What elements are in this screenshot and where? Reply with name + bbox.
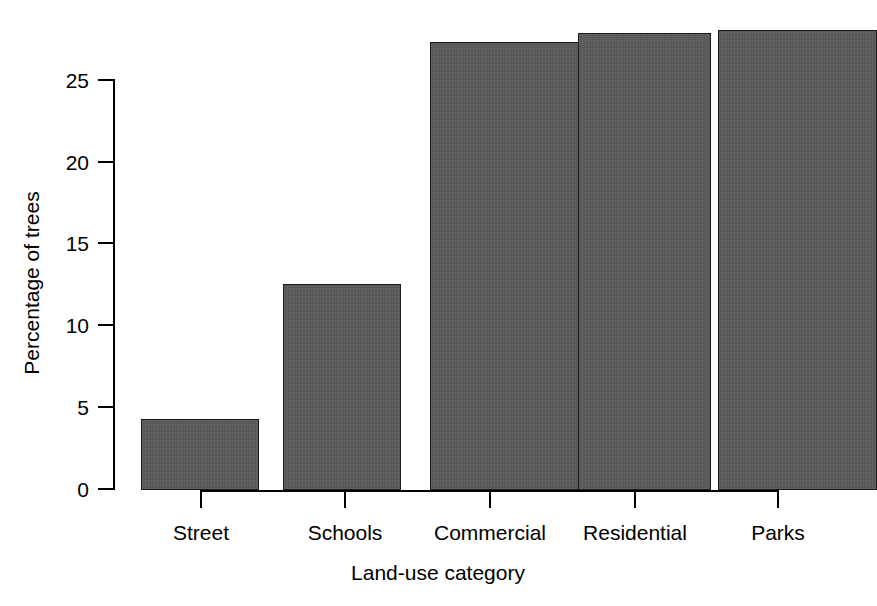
- x-tick-label-residential: Residential: [583, 522, 687, 543]
- y-tick-label-25: 25: [51, 70, 89, 91]
- bar-street: [141, 419, 259, 490]
- bar-residential: [578, 33, 711, 490]
- plot-area: 25 20 15 10 5 0 Percentage of trees Stre…: [0, 0, 877, 606]
- x-tick-residential: [634, 490, 636, 508]
- y-tick-5: [98, 406, 114, 408]
- y-tick-label-5: 5: [51, 397, 89, 418]
- y-tick-0: [98, 488, 114, 490]
- x-axis-title: Land-use category: [351, 562, 525, 583]
- bar-schools: [283, 284, 401, 490]
- y-tick-10: [98, 324, 114, 326]
- y-tick-label-10: 10: [51, 315, 89, 336]
- y-axis-title: Percentage of trees: [21, 191, 42, 374]
- x-tick-label-parks: Parks: [751, 522, 805, 543]
- x-tick-schools: [344, 490, 346, 508]
- y-tick-25: [98, 79, 114, 81]
- y-tick-label-0: 0: [51, 479, 89, 500]
- y-tick-15: [98, 242, 114, 244]
- x-tick-street: [200, 490, 202, 508]
- y-axis-line: [113, 79, 115, 490]
- y-tick-label-20: 20: [51, 152, 89, 173]
- bar-chart-figure: 25 20 15 10 5 0 Percentage of trees Stre…: [0, 0, 877, 606]
- x-tick-label-commercial: Commercial: [434, 522, 546, 543]
- bar-commercial: [430, 42, 582, 490]
- x-tick-parks: [777, 490, 779, 508]
- x-tick-label-schools: Schools: [308, 522, 383, 543]
- y-tick-20: [98, 161, 114, 163]
- bar-parks: [718, 30, 877, 490]
- x-tick-commercial: [489, 490, 491, 508]
- x-tick-label-street: Street: [173, 522, 229, 543]
- y-tick-label-15: 15: [51, 233, 89, 254]
